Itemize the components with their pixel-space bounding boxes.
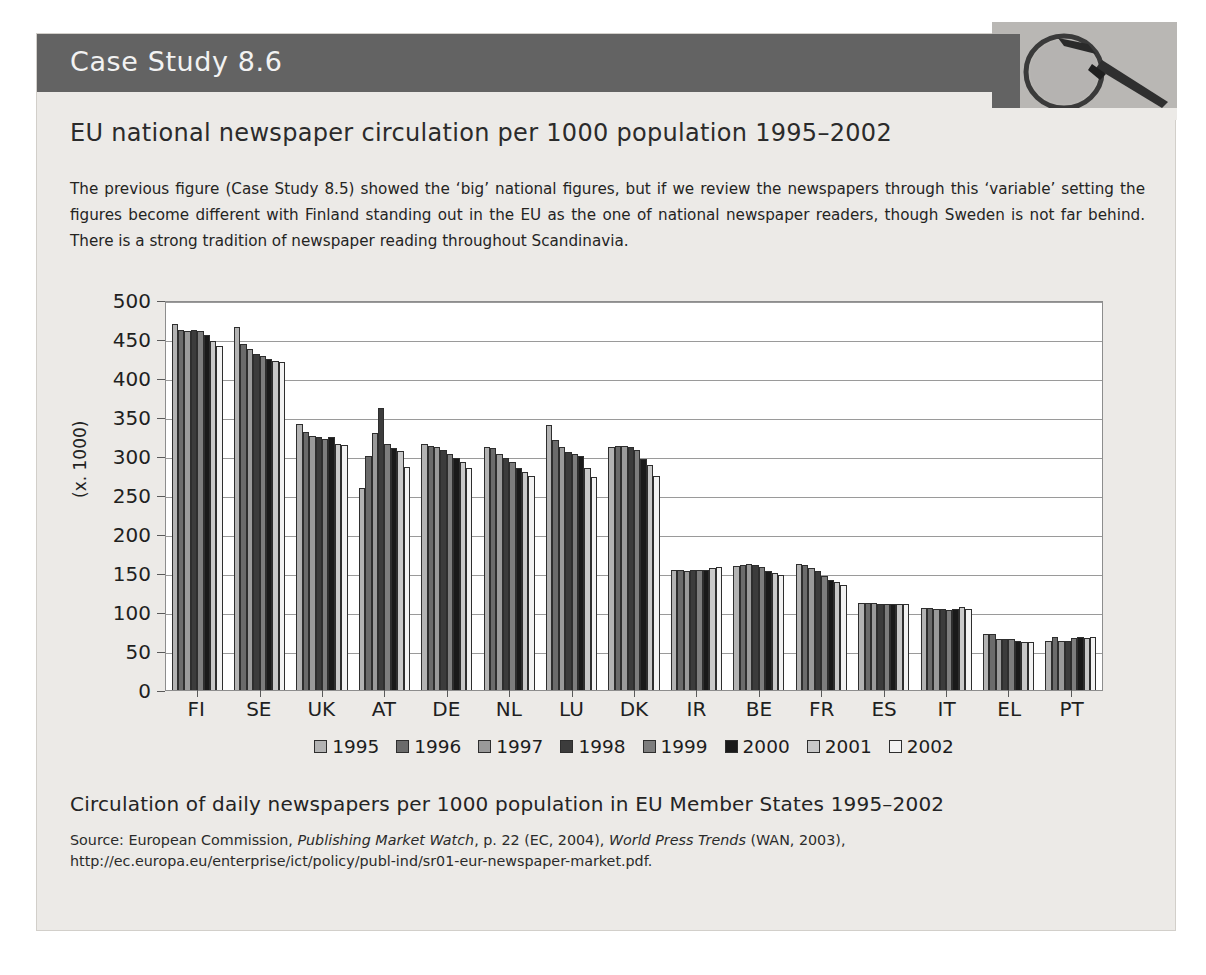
bar-at-2002 xyxy=(404,467,410,690)
source-italic-2: World Press Trends xyxy=(609,832,746,848)
panel-header: Case Study 8.6 xyxy=(37,34,992,92)
legend-swatch-2002 xyxy=(889,740,902,753)
legend-swatch-1996 xyxy=(396,740,409,753)
y-axis-tick-label: 500 xyxy=(87,289,165,313)
x-axis-tick-mark xyxy=(759,690,760,697)
bar-be-2002 xyxy=(778,575,784,690)
x-axis-tick-mark xyxy=(197,690,198,697)
bar-de-2002 xyxy=(466,468,472,690)
x-axis-tick-mark xyxy=(260,690,261,697)
source-italic-1: Publishing Market Watch xyxy=(297,832,474,848)
legend-swatch-1997 xyxy=(478,740,491,753)
chart-legend: 19951996199719981999200020012002 xyxy=(165,736,1103,757)
x-axis-label-de: DE xyxy=(415,697,478,721)
x-axis-label-nl: NL xyxy=(478,697,541,721)
bar-group-fr xyxy=(790,302,852,690)
bar-es-2002 xyxy=(903,604,909,690)
legend-item-2002[interactable]: 2002 xyxy=(889,736,954,757)
bar-lu-2002 xyxy=(591,477,597,690)
legend-label-1999: 1999 xyxy=(661,736,708,757)
y-axis-tick-label: 350 xyxy=(87,406,165,430)
y-axis-tick-mark xyxy=(157,613,165,614)
x-axis-label-el: EL xyxy=(978,697,1041,721)
bar-group-at xyxy=(353,302,415,690)
legend-item-2000[interactable]: 2000 xyxy=(725,736,790,757)
legend-label-1996: 1996 xyxy=(414,736,461,757)
chart: (x. 1000) 050100150200250300350400450500… xyxy=(70,299,1145,769)
y-axis-tick-label: 150 xyxy=(87,562,165,586)
bar-group-pt xyxy=(1040,302,1102,690)
legend-label-2002: 2002 xyxy=(907,736,954,757)
legend-item-1999[interactable]: 1999 xyxy=(643,736,708,757)
legend-label-2000: 2000 xyxy=(743,736,790,757)
y-axis-tick-mark xyxy=(157,535,165,536)
y-axis-tick-mark xyxy=(157,691,165,692)
bar-el-2002 xyxy=(1028,642,1034,690)
panel-body: EU national newspaper circulation per 10… xyxy=(37,92,1177,932)
bar-group-de xyxy=(416,302,478,690)
bar-nl-2002 xyxy=(528,476,534,691)
legend-swatch-1995 xyxy=(314,740,327,753)
legend-swatch-2001 xyxy=(807,740,820,753)
page-title: EU national newspaper circulation per 10… xyxy=(70,119,892,147)
y-axis-tick-label: 200 xyxy=(87,523,165,547)
x-axis-tick-mark xyxy=(572,690,573,697)
bar-it-2002 xyxy=(965,609,971,690)
x-axis-tick-mark xyxy=(1008,690,1009,697)
page-root: Case Study 8.6 EU national newspaper cir… xyxy=(0,0,1206,975)
y-axis-tick-mark xyxy=(157,457,165,458)
y-axis-tick-mark xyxy=(157,496,165,497)
legend-label-1995: 1995 xyxy=(332,736,379,757)
legend-swatch-1999 xyxy=(643,740,656,753)
y-axis-tick-label: 450 xyxy=(87,328,165,352)
y-axis-tick-label: 300 xyxy=(87,445,165,469)
bar-group-nl xyxy=(478,302,540,690)
x-axis-label-uk: UK xyxy=(290,697,353,721)
legend-item-1996[interactable]: 1996 xyxy=(396,736,461,757)
bar-uk-2002 xyxy=(341,445,347,690)
bar-group-fi xyxy=(166,302,228,690)
y-axis-tick-label: 50 xyxy=(87,640,165,664)
y-axis-tick-mark xyxy=(157,574,165,575)
x-axis-label-ir: IR xyxy=(665,697,728,721)
legend-item-1995[interactable]: 1995 xyxy=(314,736,379,757)
y-axis-tick-mark xyxy=(157,652,165,653)
x-axis-label-se: SE xyxy=(228,697,291,721)
bar-pt-2002 xyxy=(1090,637,1096,690)
x-axis-label-dk: DK xyxy=(603,697,666,721)
legend-label-2001: 2001 xyxy=(825,736,872,757)
x-axis-label-at: AT xyxy=(353,697,416,721)
bar-se-2002 xyxy=(279,362,285,690)
x-axis-tick-mark xyxy=(696,690,697,697)
x-axis-tick-mark xyxy=(634,690,635,697)
x-axis-label-it: IT xyxy=(915,697,978,721)
x-axis-label-pt: PT xyxy=(1040,697,1103,721)
x-axis-label-be: BE xyxy=(728,697,791,721)
x-axis-tick-mark xyxy=(821,690,822,697)
y-axis-tick-label: 400 xyxy=(87,367,165,391)
legend-item-1998[interactable]: 1998 xyxy=(560,736,625,757)
legend-item-2001[interactable]: 2001 xyxy=(807,736,872,757)
y-axis-tick-mark xyxy=(157,301,165,302)
plot-area: 050100150200250300350400450500 xyxy=(165,301,1103,691)
bar-group-es xyxy=(852,302,914,690)
x-axis-label-es: ES xyxy=(853,697,916,721)
bar-group-it xyxy=(915,302,977,690)
x-axis-label-fi: FI xyxy=(165,697,228,721)
x-axis-tick-mark xyxy=(946,690,947,697)
legend-item-1997[interactable]: 1997 xyxy=(478,736,543,757)
legend-swatch-1998 xyxy=(560,740,573,753)
bar-group-dk xyxy=(603,302,665,690)
y-axis-tick-mark xyxy=(157,340,165,341)
x-axis-tick-mark xyxy=(509,690,510,697)
bar-group-el xyxy=(977,302,1039,690)
figure-source: Source: European Commission, Publishing … xyxy=(70,830,1145,872)
plot-frame xyxy=(165,301,1103,691)
source-prefix: Source: European Commission, xyxy=(70,832,297,848)
x-axis-tick-mark xyxy=(384,690,385,697)
legend-label-1997: 1997 xyxy=(496,736,543,757)
case-study-panel: Case Study 8.6 EU national newspaper cir… xyxy=(36,33,1176,931)
x-axis-tick-mark xyxy=(447,690,448,697)
bar-group-uk xyxy=(291,302,353,690)
x-axis-label-fr: FR xyxy=(790,697,853,721)
